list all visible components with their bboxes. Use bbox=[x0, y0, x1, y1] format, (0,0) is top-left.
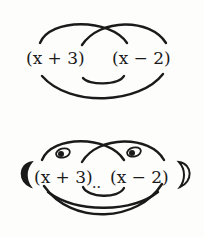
right-binomial: (x − 2) bbox=[110, 167, 169, 187]
right-ear-icon bbox=[179, 162, 190, 187]
nose-dots: .. bbox=[92, 175, 101, 191]
left-binomial: (x + 3) bbox=[26, 48, 85, 68]
outer-terms-arc bbox=[42, 74, 163, 98]
left-ear-icon bbox=[21, 162, 32, 187]
bottom-smiley-diagram: (x + 3) .. (x − 2) bbox=[21, 141, 189, 214]
left-pupil-icon bbox=[58, 151, 64, 157]
last-terms-arc bbox=[83, 187, 124, 196]
top-foil-diagram: (x + 3) (x − 2) bbox=[26, 24, 171, 98]
inner-terms-arc bbox=[82, 24, 166, 45]
right-binomial: (x − 2) bbox=[112, 48, 171, 68]
first-terms-arc bbox=[40, 24, 127, 43]
left-binomial: (x + 3) bbox=[34, 167, 93, 187]
foil-diagram-canvas: (x + 3) (x − 2) (x + 3) .. (x − 2) bbox=[0, 0, 204, 237]
first-terms-arc bbox=[42, 141, 124, 160]
right-pupil-icon bbox=[129, 150, 135, 156]
last-terms-arc bbox=[83, 76, 124, 83]
